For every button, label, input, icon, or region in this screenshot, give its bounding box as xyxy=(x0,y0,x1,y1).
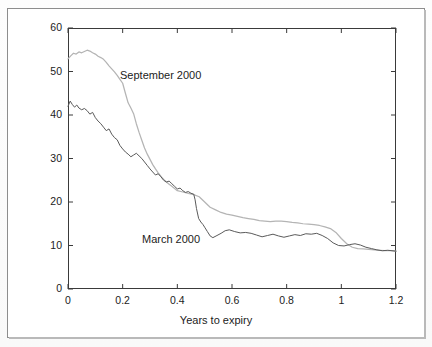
x-tick-label: 0.6 xyxy=(212,294,252,306)
x-tick-label: 0.2 xyxy=(103,294,143,306)
y-tick-label: 10 xyxy=(22,239,62,251)
y-tick-label: 40 xyxy=(22,108,62,120)
axis-ticks xyxy=(68,28,396,289)
plot-area xyxy=(68,28,396,289)
x-axis-title: Years to expiry xyxy=(0,314,432,326)
x-tick-label: 1 xyxy=(321,294,361,306)
y-tick-label: 30 xyxy=(22,152,62,164)
y-tick-label: 50 xyxy=(22,65,62,77)
figure-outer-border: 0102030405060 00.20.40.60.811.2 Volatili… xyxy=(7,8,425,338)
x-tick-label: 0.4 xyxy=(157,294,197,306)
series-annotation-march: March 2000 xyxy=(142,233,200,245)
y-tick-label: 60 xyxy=(22,21,62,33)
x-tick-label: 0.8 xyxy=(267,294,307,306)
y-tick-label: 20 xyxy=(22,195,62,207)
figure-page: 0102030405060 00.20.40.60.811.2 Volatili… xyxy=(0,0,432,347)
y-tick-label: 0 xyxy=(22,282,62,294)
x-tick-label: 0 xyxy=(48,294,88,306)
series-annotation-september: September 2000 xyxy=(120,69,201,81)
x-tick-label: 1.2 xyxy=(376,294,416,306)
